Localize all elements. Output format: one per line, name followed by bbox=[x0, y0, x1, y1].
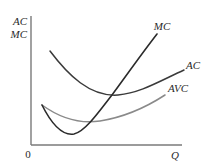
mc-curve bbox=[42, 34, 157, 134]
y-axis-label-mc: MC bbox=[10, 28, 28, 40]
ac-curve-label: AC bbox=[185, 59, 201, 71]
y-axis-label-ac: AC bbox=[12, 15, 28, 27]
avc-curve-label: AVC bbox=[167, 82, 189, 94]
x-axis-label-q: Q bbox=[171, 149, 179, 161]
mc-curve-label: MC bbox=[153, 20, 171, 32]
origin-label: 0 bbox=[25, 148, 31, 160]
cost-curves-chart: AC MC 0 Q MC AC AVC bbox=[0, 0, 208, 166]
avc-curve bbox=[42, 95, 165, 122]
